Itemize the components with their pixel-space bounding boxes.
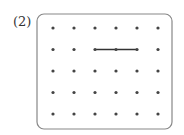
dot-grid-board — [0, 0, 184, 135]
grid-dot — [135, 26, 138, 29]
grid-dot — [135, 91, 138, 94]
grid-dot — [93, 91, 96, 94]
grid-dot — [72, 48, 75, 51]
dots-layer — [51, 26, 159, 115]
grid-dot — [114, 69, 117, 72]
grid-dot — [51, 26, 54, 29]
grid-dot — [51, 48, 54, 51]
grid-dot — [93, 69, 96, 72]
grid-dot — [51, 69, 54, 72]
grid-dot — [156, 48, 159, 51]
grid-dot — [51, 112, 54, 115]
grid-dot — [114, 26, 117, 29]
grid-dot — [93, 26, 96, 29]
grid-dot — [135, 48, 138, 51]
grid-dot — [156, 69, 159, 72]
grid-dot — [72, 26, 75, 29]
grid-dot — [93, 112, 96, 115]
grid-dot — [156, 91, 159, 94]
grid-dot — [156, 26, 159, 29]
grid-dot — [72, 91, 75, 94]
grid-dot — [135, 112, 138, 115]
grid-dot — [135, 69, 138, 72]
grid-dot — [93, 48, 96, 51]
grid-dot — [51, 91, 54, 94]
grid-dot — [114, 112, 117, 115]
grid-dot — [156, 112, 159, 115]
grid-dot — [114, 91, 117, 94]
grid-dot — [114, 48, 117, 51]
grid-dot — [72, 69, 75, 72]
grid-dot — [72, 112, 75, 115]
board-border — [37, 14, 172, 129]
